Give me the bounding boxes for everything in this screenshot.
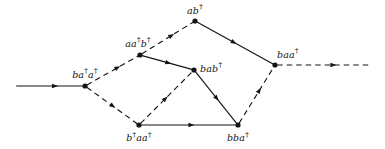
edge-ba_dag_a_dag-to-b_dag_aa_dag bbox=[87, 87, 137, 123]
edge-layer bbox=[16, 22, 372, 127]
graph-node-bba_dag[interactable] bbox=[235, 122, 240, 127]
edge-in bbox=[16, 84, 83, 89]
graph-node-aa_dag_b_dag[interactable] bbox=[137, 52, 142, 57]
graph-figure: ba†a†aa†b†ab†bab†baa†b†aa†bba† bbox=[0, 0, 385, 149]
edge-bab_dag-to-bba_dag bbox=[195, 72, 236, 124]
edge-arrowhead bbox=[188, 123, 194, 128]
edge-b_dag_aa_dag-to-bab_dag bbox=[141, 72, 193, 124]
node-label-ba_dag_a_dag: ba†a† bbox=[72, 67, 98, 79]
edge-arrowhead bbox=[165, 60, 171, 64]
edge-line bbox=[239, 67, 274, 123]
edge-aa_dag_b_dag-to-bab_dag bbox=[142, 56, 192, 70]
edge-b_dag_aa_dag-to-bba_dag bbox=[141, 123, 236, 128]
edge-arrowhead bbox=[256, 88, 261, 94]
graph-node-b_dag_aa_dag[interactable] bbox=[136, 122, 141, 127]
node-label-b_dag_aa_dag: b†aa† bbox=[126, 131, 152, 143]
edge-arrowhead bbox=[230, 39, 236, 44]
edge-arrowhead bbox=[52, 84, 58, 89]
graph-canvas bbox=[0, 0, 385, 149]
edge-arrowhead bbox=[109, 102, 115, 107]
graph-node-bab_dag[interactable] bbox=[191, 67, 196, 72]
graph-node-ab_dag[interactable] bbox=[192, 18, 197, 23]
edge-arrowhead bbox=[168, 34, 174, 39]
node-label-baa_dag: baa† bbox=[277, 47, 299, 59]
node-label-ab_dag: ab† bbox=[187, 3, 203, 15]
node-label-bba_dag: bba† bbox=[227, 131, 249, 143]
graph-node-baa_dag[interactable] bbox=[272, 62, 277, 67]
edge-ab_dag-to-baa_dag bbox=[197, 22, 273, 64]
node-label-bab_dag: bab† bbox=[200, 61, 222, 73]
edge-arrowhead bbox=[114, 66, 120, 71]
graph-node-ba_dag_a_dag[interactable] bbox=[82, 83, 87, 88]
node-layer bbox=[82, 18, 277, 127]
node-label-aa_dag_b_dag: aa†b† bbox=[125, 36, 151, 48]
edge-arrowhead bbox=[330, 63, 336, 68]
edge-out bbox=[277, 63, 372, 68]
edge-bba_dag-to-baa_dag bbox=[239, 67, 274, 123]
